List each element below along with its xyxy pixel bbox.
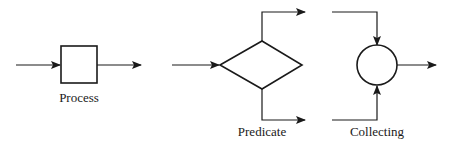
predicate-false-branch-arrow: [262, 89, 305, 120]
process-node-group: Process: [16, 46, 141, 105]
collecting-node-group: Collecting: [332, 12, 436, 139]
predicate-label: Predicate: [238, 124, 287, 139]
collecting-circle: [357, 45, 397, 85]
predicate-diamond: [220, 41, 302, 89]
process-rectangle: [61, 46, 97, 83]
predicate-node-group: Predicate: [172, 12, 305, 139]
flowchart-diagram: Process Predicate Collecting: [0, 0, 451, 146]
process-label: Process: [59, 90, 99, 105]
collecting-bottom-input-arrow: [332, 86, 377, 120]
collecting-label: Collecting: [350, 124, 405, 139]
predicate-true-branch-arrow: [262, 12, 305, 41]
collecting-top-input-arrow: [332, 12, 377, 45]
